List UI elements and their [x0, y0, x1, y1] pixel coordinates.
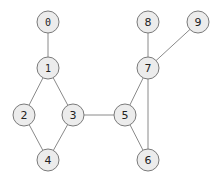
node-label: 0	[45, 17, 51, 28]
node-label: 3	[70, 109, 77, 122]
node-5: 5	[114, 104, 136, 126]
edge-layer	[24, 22, 198, 160]
node-3: 3	[62, 104, 84, 126]
node-0: 0	[37, 11, 59, 33]
graph-diagram: 0123456789	[0, 0, 220, 185]
node-label: 5	[122, 109, 129, 122]
node-label: 6	[145, 154, 152, 167]
node-4: 4	[37, 149, 59, 171]
node-9: 9	[187, 11, 209, 33]
node-1: 1	[37, 57, 59, 79]
node-label: 4	[45, 154, 52, 167]
node-7: 7	[137, 57, 159, 79]
node-label: 9	[195, 16, 202, 29]
node-2: 2	[13, 104, 35, 126]
node-label: 7	[145, 62, 152, 75]
node-label: 2	[21, 109, 28, 122]
node-label: 8	[145, 16, 152, 29]
node-6: 6	[137, 149, 159, 171]
node-layer: 0123456789	[13, 11, 209, 171]
node-8: 8	[137, 11, 159, 33]
node-label: 1	[45, 63, 51, 74]
